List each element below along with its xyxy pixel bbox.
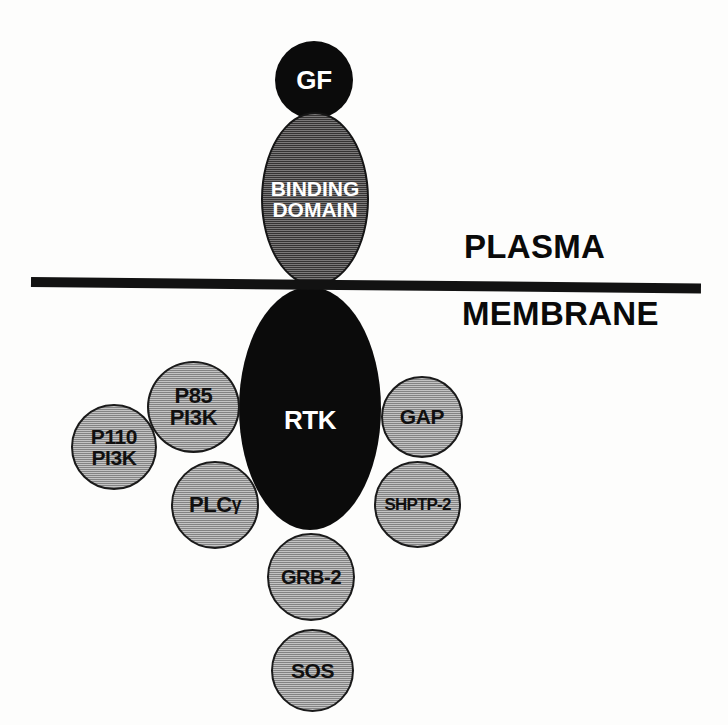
node-grb-2: GRB-2 bbox=[267, 533, 355, 621]
node-shptp-2: SHPTP-2 bbox=[374, 461, 461, 548]
node-gap: GAP bbox=[381, 376, 463, 458]
node-binding-domain-label-line2: DOMAIN bbox=[272, 199, 357, 220]
node-sos: SOS bbox=[271, 629, 354, 712]
node-grb-2-label: GRB-2 bbox=[281, 567, 341, 587]
node-p85-pi3k-label-line2: PI3K bbox=[170, 407, 217, 429]
node-binding-domain-label-line1: BINDING bbox=[271, 178, 360, 199]
node-p85-pi3k-label-line1: P85 bbox=[175, 385, 213, 407]
node-p85-pi3k: P85 PI3K bbox=[147, 361, 240, 453]
node-rtk-label: RTK bbox=[284, 407, 336, 434]
node-growth-factor: GF bbox=[275, 41, 353, 119]
node-plc-gamma: PLCγ bbox=[171, 461, 259, 549]
node-p110-pi3k: P110 PI3K bbox=[71, 404, 157, 490]
node-growth-factor-label: GF bbox=[296, 67, 331, 94]
node-shptp-2-label: SHPTP-2 bbox=[384, 496, 450, 513]
plasma-membrane-line bbox=[31, 277, 701, 293]
node-sos-label: SOS bbox=[291, 660, 334, 681]
membrane-label: MEMBRANE bbox=[462, 295, 659, 333]
node-rtk: RTK bbox=[239, 287, 381, 530]
plasma-label: PLASMA bbox=[464, 228, 605, 266]
node-binding-domain: BINDING DOMAIN bbox=[261, 112, 369, 286]
node-plc-gamma-label-text: PLC bbox=[189, 492, 232, 517]
gamma-glyph: γ bbox=[232, 494, 241, 514]
node-p110-pi3k-label-line1: P110 bbox=[91, 426, 137, 447]
node-plc-gamma-label: PLCγ bbox=[189, 494, 241, 516]
node-gap-label: GAP bbox=[400, 406, 444, 427]
signaling-diagram-canvas: GF BINDING DOMAIN PLASMA MEMBRANE RTK P1… bbox=[0, 0, 728, 725]
node-p110-pi3k-label-line2: PI3K bbox=[91, 447, 136, 468]
